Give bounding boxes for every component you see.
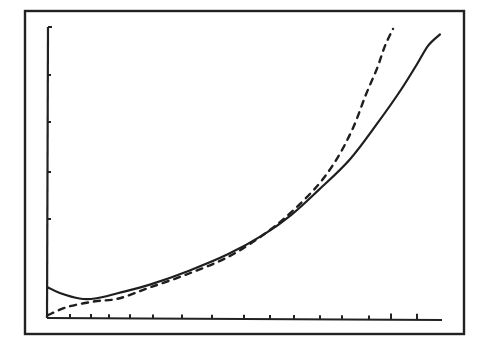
series-solid-line [48,34,440,299]
series-dashed-line [48,29,393,315]
chart [0,0,496,353]
plot-area [48,29,440,315]
axes [47,27,442,320]
outer-frame [25,11,464,334]
